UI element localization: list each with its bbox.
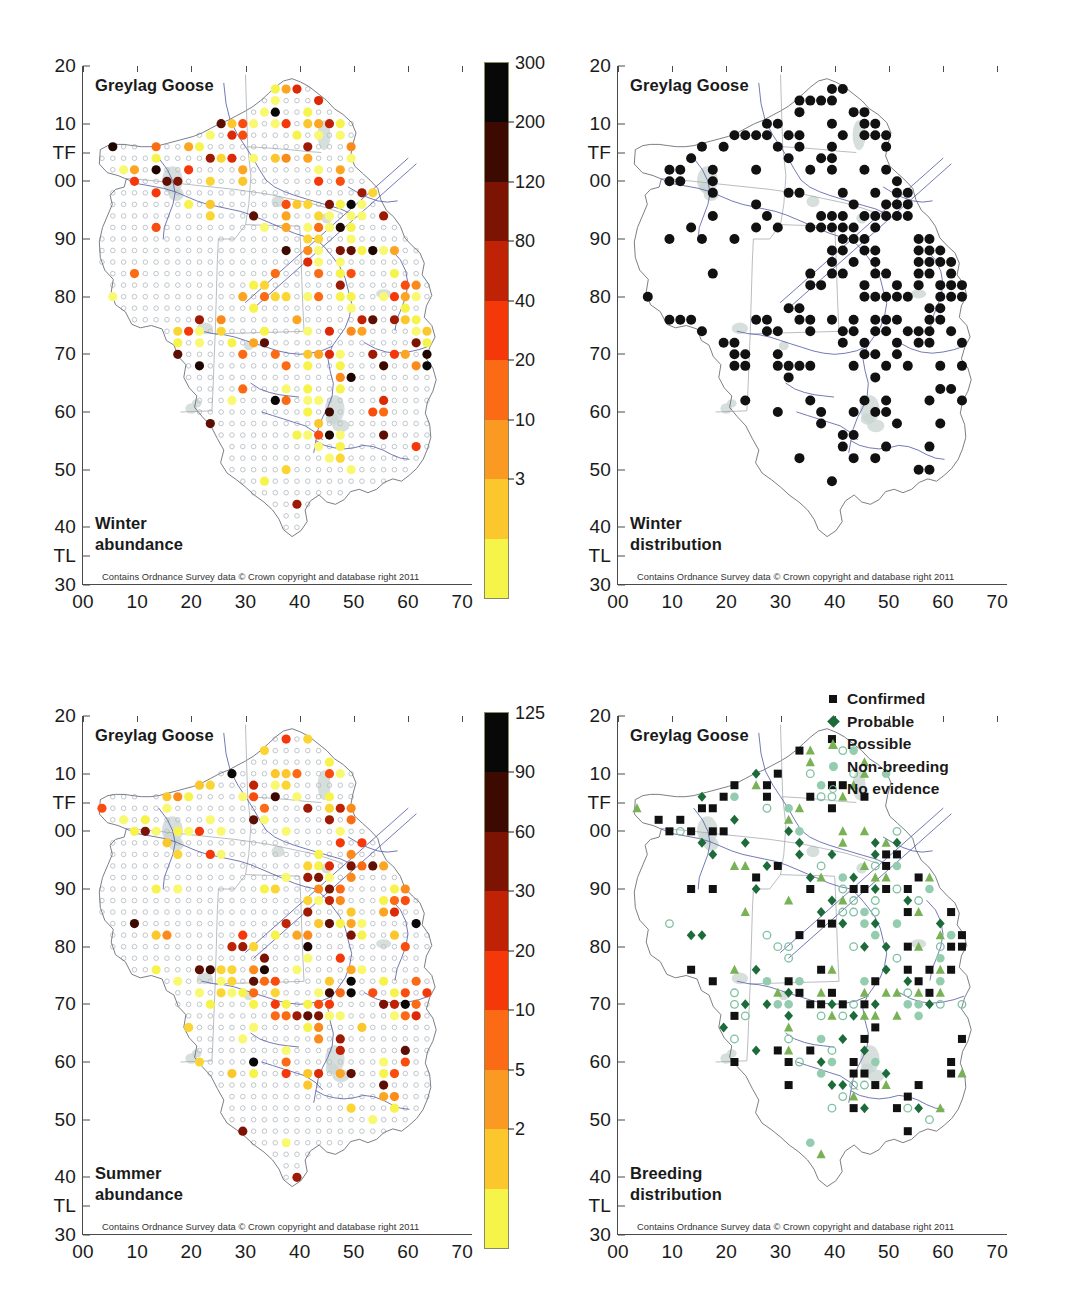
abundance-marker <box>368 246 377 255</box>
legend-item-confirmed[interactable]: Confirmed <box>823 688 949 711</box>
survey-grid-cell <box>197 1014 202 1019</box>
breeding-marker-confirmed <box>817 966 825 974</box>
panel-title-breeding-distribution: Greylag Goose <box>630 726 749 745</box>
survey-grid-cell <box>338 490 343 495</box>
breeding-marker-possible <box>860 1011 869 1020</box>
legend-item-possible[interactable]: Possible <box>823 733 949 756</box>
survey-grid-cell <box>132 875 137 880</box>
survey-grid-cell <box>175 271 180 276</box>
survey-grid-cell <box>186 225 191 230</box>
survey-grid-cell <box>403 910 408 915</box>
survey-grid-cell <box>305 133 310 138</box>
survey-grid-cell <box>273 910 278 915</box>
survey-grid-cell <box>165 306 170 311</box>
breeding-marker-confirmed <box>839 1000 847 1008</box>
survey-grid-cell <box>251 875 256 880</box>
survey-grid-cell <box>197 841 202 846</box>
survey-grid-cell <box>240 364 245 369</box>
abundance-marker <box>325 211 334 220</box>
survey-grid-cell <box>305 490 310 495</box>
legend-item-no-evidence[interactable]: No evidence <box>823 778 949 801</box>
presence-marker <box>849 326 859 336</box>
survey-grid-cell <box>230 467 235 472</box>
survey-grid-cell <box>284 1025 289 1030</box>
survey-grid-cell <box>121 944 126 949</box>
abundance-marker <box>303 907 312 916</box>
attribution-winter-distribution: Contains Ordnance Survey data © Crown co… <box>637 572 954 582</box>
survey-grid-cell <box>403 1117 408 1122</box>
survey-grid-cell <box>392 375 397 380</box>
survey-grid-cell <box>251 1083 256 1088</box>
urban-area <box>911 289 926 298</box>
abundance-marker <box>260 746 269 755</box>
survey-grid-cell <box>240 921 245 926</box>
survey-grid-cell <box>175 921 180 926</box>
survey-grid-cell <box>284 410 289 415</box>
abundance-marker <box>206 850 215 859</box>
breeding-marker-probable <box>925 999 934 1009</box>
survey-grid-cell <box>262 421 267 426</box>
presence-marker <box>914 246 924 256</box>
presence-marker <box>664 165 674 175</box>
survey-grid-cell <box>165 898 170 903</box>
survey-grid-cell <box>165 979 170 984</box>
breeding-marker-no-evidence <box>850 908 858 916</box>
breeding-marker-confirmed <box>806 885 814 893</box>
survey-grid-cell <box>392 1025 397 1030</box>
abundance-marker <box>303 223 312 232</box>
survey-grid-cell <box>110 248 115 253</box>
survey-grid-cell <box>381 956 386 961</box>
presence-marker <box>881 142 891 152</box>
y-axis-tick-label: 90 <box>54 878 83 900</box>
survey-grid-cell <box>414 387 419 392</box>
abundance-marker <box>401 942 410 951</box>
survey-grid-cell <box>360 341 365 346</box>
breeding-marker-probable <box>828 999 837 1009</box>
breeding-marker-non-breeding <box>893 919 902 928</box>
breeding-marker-confirmed <box>947 943 955 951</box>
breeding-marker-confirmed <box>720 793 728 801</box>
x-axis-tick-mark <box>672 716 673 722</box>
presence-marker <box>729 349 739 359</box>
survey-grid-cell <box>186 294 191 299</box>
breeding-marker-no-evidence <box>850 943 858 951</box>
survey-grid-cell <box>230 260 235 265</box>
survey-grid-cell <box>132 306 137 311</box>
abundance-marker <box>401 1011 410 1020</box>
survey-grid-cell <box>284 317 289 322</box>
survey-grid-cell <box>370 421 375 426</box>
y-axis-tick-mark <box>618 889 625 890</box>
abundance-marker <box>271 96 280 105</box>
survey-grid-cell <box>370 237 375 242</box>
survey-grid-cell <box>338 479 343 484</box>
survey-grid-cell <box>370 887 375 892</box>
y-axis-tick-mark <box>618 556 625 557</box>
attribution-summer-abundance: Contains Ordnance Survey data © Crown co… <box>102 1222 419 1232</box>
map-canvas-winter-abundance <box>83 66 472 584</box>
legend-item-non-breeding[interactable]: Non-breeding <box>823 756 949 779</box>
survey-grid-cell <box>240 841 245 846</box>
breeding-marker-confirmed <box>850 1070 858 1078</box>
survey-grid-cell <box>110 887 115 892</box>
survey-grid-cell <box>381 306 386 311</box>
survey-grid-cell <box>251 225 256 230</box>
presence-marker <box>729 361 739 371</box>
x-axis-tick-mark <box>672 66 673 72</box>
abundance-marker <box>336 165 345 174</box>
survey-grid-cell <box>154 248 159 253</box>
survey-grid-cell <box>208 921 213 926</box>
abundance-marker <box>227 119 236 128</box>
legend-item-probable[interactable]: Probable <box>823 711 949 734</box>
abundance-marker <box>217 827 226 836</box>
survey-grid-cell <box>121 191 126 196</box>
abundance-marker <box>357 327 366 336</box>
survey-grid-cell <box>175 944 180 949</box>
breeding-marker-possible <box>882 872 891 881</box>
breeding-marker-non-breeding <box>936 977 945 986</box>
abundance-marker <box>368 188 377 197</box>
abundance-marker <box>249 792 258 801</box>
survey-grid-cell <box>284 760 289 765</box>
survey-grid-cell <box>197 156 202 161</box>
abundance-marker <box>325 758 334 767</box>
survey-grid-cell <box>132 260 137 265</box>
